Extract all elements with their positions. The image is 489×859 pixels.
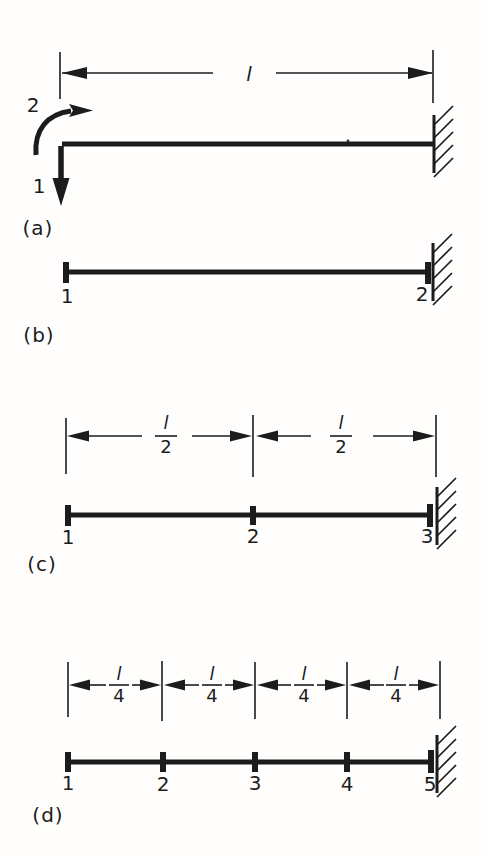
dimension-arrowhead-right — [140, 680, 161, 691]
fraction-denominator: 4 — [298, 685, 309, 706]
fraction-numerator: l — [301, 663, 306, 684]
dimension-arrowhead-left — [256, 431, 278, 442]
beam-discretization-figure: l 2 1 (a) 1 2 (b) l — [0, 0, 489, 859]
force-arrowhead — [53, 178, 70, 206]
dof-rotation-label: 2 — [27, 93, 40, 117]
fraction-l-over-4: l 4 — [294, 663, 314, 706]
fraction-numerator: l — [209, 663, 214, 684]
part-b-label: (b) — [23, 323, 54, 347]
fixed-support — [434, 106, 453, 177]
node-label-5: 5 — [424, 772, 437, 796]
node-label-3: 3 — [249, 771, 262, 795]
node-label-4: 4 — [341, 772, 354, 796]
dimension-arrowhead-left — [349, 680, 370, 691]
fraction-denominator: 4 — [390, 685, 401, 706]
node-label-1: 1 — [62, 525, 75, 549]
fixed-support — [437, 478, 456, 549]
dimension-arrowhead-right — [418, 680, 439, 691]
fraction-l-over-2: l 2 — [330, 412, 352, 457]
part-d-label: (d) — [32, 803, 63, 827]
ink-speck — [347, 140, 350, 143]
span-length-label: l — [246, 62, 252, 86]
dimension-arrowhead-left — [62, 67, 87, 79]
dimension-arrowhead-right — [233, 680, 254, 691]
dimension-arrowhead-left — [257, 680, 278, 691]
dimension-arrowhead-left — [164, 680, 185, 691]
node-label-2: 2 — [157, 772, 170, 796]
part-a-label: (a) — [23, 216, 54, 240]
fraction-denominator: 2 — [160, 436, 171, 457]
fraction-denominator: 2 — [335, 436, 346, 457]
dimension-arrowhead-right — [408, 67, 433, 79]
fraction-denominator: 4 — [113, 685, 124, 706]
fixed-support — [437, 726, 456, 797]
node-label-2: 2 — [416, 282, 429, 306]
fraction-numerator: l — [163, 412, 168, 433]
diagram-b: 1 2 (b) — [23, 234, 452, 347]
dof-translation-label: 1 — [33, 174, 46, 198]
fraction-l-over-4: l 4 — [386, 663, 406, 706]
fraction-l-over-4: l 4 — [109, 663, 129, 706]
fraction-denominator: 4 — [206, 685, 217, 706]
dimension-arrowhead-left — [67, 431, 89, 442]
rotation-arrow — [36, 111, 71, 155]
fraction-numerator: l — [393, 663, 398, 684]
node-label-1: 1 — [61, 284, 74, 308]
figure-page: l 2 1 (a) 1 2 (b) l — [0, 0, 489, 859]
rotation-arrowhead — [69, 104, 93, 117]
dimension-arrowhead-right — [413, 431, 435, 442]
part-c-label: (c) — [27, 552, 57, 576]
fixed-support — [433, 234, 452, 305]
fraction-l-over-4: l 4 — [202, 663, 222, 706]
node-label-1: 1 — [62, 771, 75, 795]
diagram-d: l 4 l 4 l 4 l 4 — [32, 661, 456, 827]
fraction-numerator: l — [338, 412, 343, 433]
dimension-arrowhead-right — [325, 680, 346, 691]
node-label-2: 2 — [247, 524, 260, 548]
diagram-a: l 2 1 (a) — [23, 50, 453, 240]
fraction-l-over-2: l 2 — [155, 412, 177, 457]
dimension-arrowhead-left — [69, 680, 90, 691]
fraction-numerator: l — [116, 663, 121, 684]
dimension-arrowhead-right — [230, 431, 252, 442]
diagram-c: l 2 l 2 1 2 3 (c) — [27, 412, 456, 576]
node-label-3: 3 — [421, 524, 434, 548]
